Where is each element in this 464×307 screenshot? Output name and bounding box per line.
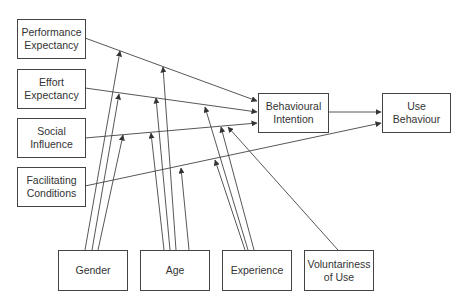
behavioural-intention-box: Behavioural Intention — [258, 93, 329, 133]
experience-box: Experience — [222, 250, 292, 291]
edge-age-pe — [163, 67, 176, 250]
facilitating-conditions-box: Facilitating Conditions — [17, 167, 86, 207]
use-behaviour-label: Use Behaviour — [393, 100, 440, 126]
edge-age-fc — [181, 168, 189, 250]
edge-exp-ee — [205, 107, 248, 250]
voluntariness-label: Voluntariness of Use — [307, 258, 370, 284]
social-influence-label: Social Influence — [30, 125, 73, 151]
use-behaviour-box: Use Behaviour — [382, 93, 451, 133]
edge-exp-fc — [215, 160, 245, 250]
effort-expectancy-label: Effort Expectancy — [24, 76, 78, 102]
edge-age-ee — [156, 98, 170, 250]
voluntariness-box: Voluntariness of Use — [304, 250, 374, 291]
edge-vol-si — [228, 127, 338, 250]
performance-expectancy-box: Performance Expectancy — [17, 19, 86, 59]
edge-age-si — [151, 133, 164, 250]
gender-label: Gender — [75, 264, 110, 277]
social-influence-box: Social Influence — [17, 118, 86, 158]
gender-box: Gender — [58, 250, 128, 291]
experience-label: Experience — [231, 264, 284, 277]
performance-expectancy-label: Performance Expectancy — [21, 26, 81, 52]
edge-gender-pe — [85, 51, 120, 250]
edge-exp-si — [221, 127, 254, 250]
effort-expectancy-box: Effort Expectancy — [17, 69, 86, 109]
age-box: Age — [140, 250, 210, 291]
age-label: Age — [166, 264, 185, 277]
behavioural-intention-label: Behavioural Intention — [266, 100, 321, 126]
facilitating-conditions-label: Facilitating Conditions — [26, 174, 76, 200]
